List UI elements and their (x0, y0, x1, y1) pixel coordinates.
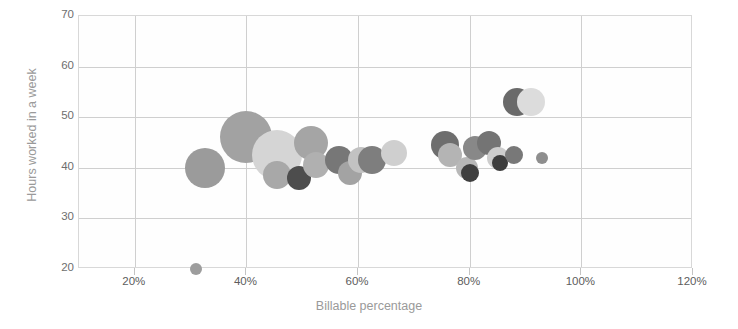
x-tick-mark (134, 268, 135, 275)
bubble-point[interactable] (505, 146, 523, 164)
y-axis-title: Hours worked in a week (25, 40, 39, 230)
gridline-horizontal (79, 218, 691, 219)
x-tick-label: 60% (346, 276, 369, 288)
gridline-vertical (581, 16, 582, 267)
plot-area (78, 15, 692, 268)
x-tick-label: 100% (566, 276, 595, 288)
y-tick-label: 70 (40, 9, 74, 21)
bubble-point[interactable] (461, 164, 479, 182)
x-tick-label: 20% (122, 276, 145, 288)
x-axis-title: Billable percentage (0, 299, 738, 313)
bubble-point[interactable] (190, 263, 202, 275)
bubble-point[interactable] (381, 140, 407, 166)
x-tick-mark (580, 268, 581, 275)
y-tick-label: 20 (40, 262, 74, 274)
y-axis-tick-labels: 203040506070 (36, 0, 74, 329)
bubble-point[interactable] (536, 152, 548, 164)
x-tick-label: 40% (234, 276, 257, 288)
gridline-horizontal (79, 168, 691, 169)
bubble-point[interactable] (517, 88, 545, 116)
y-tick-label: 60 (40, 60, 74, 72)
x-tick-mark (469, 268, 470, 275)
gridline-horizontal (79, 67, 691, 68)
bubble-point[interactable] (185, 148, 225, 188)
gridline-horizontal (79, 117, 691, 118)
y-tick-label: 40 (40, 161, 74, 173)
x-tick-mark (357, 268, 358, 275)
x-tick-label: 80% (457, 276, 480, 288)
y-tick-label: 30 (40, 212, 74, 224)
gridline-vertical (358, 16, 359, 267)
x-tick-mark (692, 268, 693, 275)
x-tick-mark (245, 268, 246, 275)
y-tick-label: 50 (40, 110, 74, 122)
bubble-chart: 203040506070 20%40%60%80%100%120% Billab… (0, 0, 738, 329)
x-tick-label: 120% (677, 276, 706, 288)
gridline-vertical (135, 16, 136, 267)
